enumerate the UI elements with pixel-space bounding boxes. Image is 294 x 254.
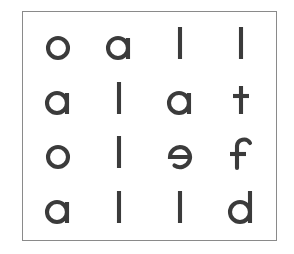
letter-l: l: [163, 187, 197, 231]
grid-cell-r2-c1: a: [27, 73, 88, 128]
grid-cell-r2-c4: t: [211, 73, 272, 128]
letter-e: e: [163, 132, 197, 176]
letter-l: l: [163, 23, 197, 67]
letter-l: l: [102, 187, 136, 231]
letter-grid-figure: oallalatolefalld: [0, 0, 294, 254]
letter-a: a: [41, 187, 75, 231]
letter-o: o: [41, 132, 75, 176]
grid-cell-r4-c4: d: [211, 182, 272, 237]
letter-o: o: [41, 23, 75, 67]
grid-cell-r3-c3: e: [150, 127, 211, 182]
grid-cell-r3-c2: l: [88, 127, 149, 182]
letter-l: l: [224, 23, 258, 67]
grid-cell-r1-c4: l: [211, 18, 272, 73]
grid-cell-r4-c3: l: [150, 182, 211, 237]
grid-cell-r4-c2: l: [88, 182, 149, 237]
grid-cell-r1-c2: a: [88, 18, 149, 73]
grid-cell-r1-c1: o: [27, 18, 88, 73]
grid-cell-r2-c3: a: [150, 73, 211, 128]
grid-cell-r4-c1: a: [27, 182, 88, 237]
letter-a: a: [163, 78, 197, 122]
letter-l: l: [102, 132, 136, 176]
letter-t: t: [224, 78, 258, 122]
letter-l: l: [102, 78, 136, 122]
letter-d: d: [224, 187, 258, 231]
grid-border: oallalatolefalld: [22, 11, 277, 241]
letter-a: a: [102, 23, 136, 67]
letter-a: a: [41, 78, 75, 122]
letter-grid: oallalatolefalld: [23, 12, 276, 240]
grid-cell-r3-c1: o: [27, 127, 88, 182]
letter-f: f: [224, 132, 258, 176]
grid-cell-r3-c4: f: [211, 127, 272, 182]
grid-cell-r2-c2: l: [88, 73, 149, 128]
grid-cell-r1-c3: l: [150, 18, 211, 73]
